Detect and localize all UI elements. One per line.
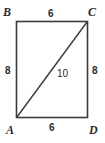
side-measure-left: 8 bbox=[5, 66, 11, 76]
vertex-label-a: A bbox=[6, 124, 14, 136]
vertex-label-b: B bbox=[3, 6, 11, 18]
geometry-figure: B C A D 6 6 8 8 10 bbox=[0, 0, 105, 143]
side-measure-bottom: 6 bbox=[49, 123, 55, 133]
side-measure-top: 6 bbox=[48, 9, 54, 19]
diagonal-measure: 10 bbox=[57, 69, 68, 79]
side-measure-right: 8 bbox=[92, 66, 98, 76]
vertex-label-d: D bbox=[89, 124, 98, 136]
vertex-label-c: C bbox=[88, 6, 96, 18]
